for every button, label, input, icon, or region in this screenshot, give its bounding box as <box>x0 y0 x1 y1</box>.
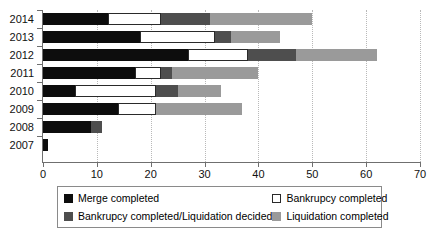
bar-segment-bkliq[interactable] <box>156 85 178 97</box>
bar-segment-bkliq[interactable] <box>91 121 102 133</box>
legend-swatch-bkliq <box>64 212 73 221</box>
legend-label: Liquidation completed <box>286 211 388 222</box>
chart-legend: Merge completedBankrupcy completedBankru… <box>57 186 382 228</box>
x-axis-tick-label: 0 <box>28 168 58 180</box>
x-axis-tick-label: 60 <box>351 168 381 180</box>
bar-segment-merge[interactable] <box>43 121 91 133</box>
legend-label: Bankrupcy completed <box>286 193 387 204</box>
bar-segment-bkliq[interactable] <box>215 31 231 43</box>
x-axis-tick-label: 70 <box>405 168 428 180</box>
stacked-bar[interactable] <box>43 85 221 97</box>
legend-item-merge[interactable]: Merge completed <box>64 193 272 204</box>
stacked-bar[interactable] <box>43 67 258 79</box>
legend-grid: Merge completedBankrupcy completedBankru… <box>58 187 381 227</box>
x-axis-tick-label: 30 <box>190 168 220 180</box>
gridline <box>420 10 422 162</box>
x-axis-ticks <box>43 162 421 167</box>
gridline <box>312 10 314 162</box>
x-axis-tick-label: 20 <box>136 168 166 180</box>
x-axis-tick <box>97 162 98 167</box>
bar-segment-bankruptcy[interactable] <box>140 31 215 43</box>
gridline <box>366 10 368 162</box>
y-axis-tick-label: 2014 <box>0 10 38 28</box>
x-axis-tick-label: 10 <box>82 168 112 180</box>
legend-label: Bankrupcy completed/Liquidation decided <box>78 211 272 222</box>
y-axis-tick-label: 2008 <box>0 118 38 136</box>
x-axis-tick <box>420 162 421 167</box>
bar-segment-bkliq[interactable] <box>161 13 209 25</box>
stacked-bar[interactable] <box>43 49 377 61</box>
y-axis-tick-label: 2009 <box>0 100 38 118</box>
legend-swatch-bankruptcy <box>272 194 281 203</box>
bar-segment-merge[interactable] <box>43 31 140 43</box>
bar-segment-bankruptcy[interactable] <box>135 67 162 79</box>
bar-segment-bankruptcy[interactable] <box>118 103 156 115</box>
bar-segment-merge[interactable] <box>43 67 135 79</box>
bar-segment-liq[interactable] <box>210 13 312 25</box>
y-axis-tick-label: 2011 <box>0 64 38 82</box>
stacked-bar-chart: 20142013201220112010200920082007 0102030… <box>0 0 428 236</box>
plot-wrapper: 20142013201220112010200920082007 0102030… <box>0 0 428 180</box>
x-axis-tick-label: 40 <box>243 168 273 180</box>
y-axis-tick-label: 2007 <box>0 136 38 154</box>
bar-segment-liq[interactable] <box>156 103 242 115</box>
plot-area <box>43 10 420 162</box>
bar-segment-merge[interactable] <box>43 49 188 61</box>
y-axis-tick-label: 2012 <box>0 46 38 64</box>
bar-segment-merge[interactable] <box>43 139 48 151</box>
bar-segment-bankruptcy[interactable] <box>75 85 156 97</box>
bar-segment-liq[interactable] <box>172 67 258 79</box>
x-axis-tick <box>205 162 206 167</box>
bar-segment-merge[interactable] <box>43 103 118 115</box>
bar-segment-bkliq[interactable] <box>161 67 172 79</box>
bar-segment-merge[interactable] <box>43 85 75 97</box>
stacked-bar[interactable] <box>43 103 242 115</box>
legend-label: Merge completed <box>78 193 159 204</box>
bar-segment-liq[interactable] <box>296 49 377 61</box>
stacked-bar[interactable] <box>43 121 102 133</box>
legend-swatch-merge <box>64 194 73 203</box>
x-axis-tick <box>43 162 44 167</box>
y-axis-tick-label: 2010 <box>0 82 38 100</box>
x-axis-tick-labels: 010203040506070 <box>0 168 428 182</box>
bar-segment-bankruptcy[interactable] <box>108 13 162 25</box>
x-axis-tick <box>258 162 259 167</box>
bar-segment-liq[interactable] <box>231 31 279 43</box>
x-axis-tick <box>366 162 367 167</box>
bar-segment-merge[interactable] <box>43 13 108 25</box>
x-axis-tick <box>151 162 152 167</box>
legend-item-bkliq[interactable]: Bankrupcy completed/Liquidation decided <box>64 211 272 222</box>
legend-item-liq[interactable]: Liquidation completed <box>272 211 388 222</box>
bar-segment-bankruptcy[interactable] <box>188 49 247 61</box>
y-axis-tick-labels: 20142013201220112010200920082007 <box>0 10 38 154</box>
legend-swatch-liq <box>272 212 281 221</box>
legend-item-bankruptcy[interactable]: Bankrupcy completed <box>272 193 388 204</box>
x-axis-tick <box>312 162 313 167</box>
bar-segment-liq[interactable] <box>178 85 221 97</box>
y-axis-tick-label: 2013 <box>0 28 38 46</box>
stacked-bar[interactable] <box>43 31 280 43</box>
stacked-bar[interactable] <box>43 139 48 151</box>
x-axis-tick-label: 50 <box>297 168 327 180</box>
bar-segment-bkliq[interactable] <box>248 49 296 61</box>
stacked-bar[interactable] <box>43 13 312 25</box>
